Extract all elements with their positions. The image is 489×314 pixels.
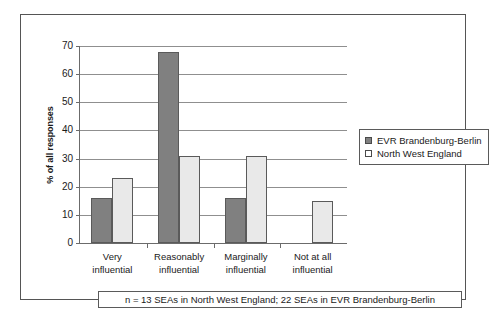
figure-frame: % of all responses 010203040506070 Veryi… xyxy=(20,14,466,300)
x-tick-mark xyxy=(280,243,281,248)
legend-label: EVR Brandenburg-Berlin xyxy=(377,136,482,146)
legend-swatch-icon xyxy=(365,150,372,157)
y-tick-label: 60 xyxy=(62,69,73,79)
y-tick-label: 10 xyxy=(62,210,73,220)
plot-area: 010203040506070 xyxy=(79,46,347,244)
x-axis-label-line: influential xyxy=(213,264,280,277)
chart-legend: EVR Brandenburg-BerlinNorth West England xyxy=(359,129,489,165)
y-tick-label: 20 xyxy=(62,182,73,192)
legend-label: North West England xyxy=(377,149,462,159)
bar-group xyxy=(280,46,347,243)
bar xyxy=(179,156,200,243)
x-axis-label: Veryinfluential xyxy=(79,251,146,281)
y-tick-label: 0 xyxy=(67,238,73,248)
x-axis-label: Marginallyinfluential xyxy=(213,251,280,281)
y-tick-label: 70 xyxy=(62,41,73,51)
legend-entry[interactable]: EVR Brandenburg-Berlin xyxy=(365,134,482,147)
x-axis-label-line: influential xyxy=(146,264,213,277)
caption-text: n = 13 SEAs in North West England; 22 SE… xyxy=(125,294,435,305)
y-tick-label: 50 xyxy=(62,97,73,107)
x-axis-label-line: Not at all xyxy=(279,251,346,264)
x-axis-label-line: Reasonably xyxy=(146,251,213,264)
bar xyxy=(112,178,133,243)
y-axis-title: % of all responses xyxy=(43,70,57,220)
bar xyxy=(158,52,179,243)
bars-layer xyxy=(80,46,347,243)
bar-group xyxy=(214,46,281,243)
y-tick-mark xyxy=(76,243,80,244)
x-axis-label-line: Marginally xyxy=(213,251,280,264)
bar-group xyxy=(80,46,147,243)
x-axis-label: Not at allinfluential xyxy=(279,251,346,281)
caption-box: n = 13 SEAs in North West England; 22 SE… xyxy=(98,291,462,308)
legend-swatch-icon xyxy=(365,137,372,144)
bar xyxy=(312,201,333,243)
bar xyxy=(246,156,267,243)
bar xyxy=(91,198,112,243)
x-axis-label: Reasonablyinfluential xyxy=(146,251,213,281)
x-axis-labels: VeryinfluentialReasonablyinfluentialMarg… xyxy=(79,251,346,281)
legend-entry[interactable]: North West England xyxy=(365,147,482,160)
x-tick-mark xyxy=(214,243,215,248)
y-tick-label: 30 xyxy=(62,154,73,164)
bar-group xyxy=(147,46,214,243)
x-axis-label-line: Very xyxy=(79,251,146,264)
x-axis-label-line: influential xyxy=(79,264,146,277)
y-tick-label: 40 xyxy=(62,125,73,135)
x-axis-label-line: influential xyxy=(279,264,346,277)
x-tick-mark xyxy=(147,243,148,248)
bar xyxy=(225,198,246,243)
